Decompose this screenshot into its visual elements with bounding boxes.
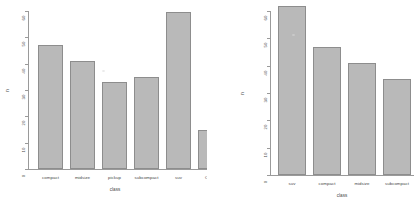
right-y-tick-label-30: 30 — [264, 93, 268, 107]
render-artifact-smudge — [292, 34, 295, 36]
bar-other — [198, 130, 207, 170]
left-y-tick-label-10: 10 — [22, 143, 26, 157]
right-y-tick-label-40: 40 — [264, 66, 268, 80]
bar-midsize — [348, 63, 376, 175]
left-y-tick-label-0: 0 — [22, 169, 26, 183]
render-artifact-smudge — [102, 70, 105, 72]
right-y-tick-label-0: 0 — [264, 175, 268, 189]
left-x-tick-label-compact: compact — [36, 176, 66, 180]
right-y-tick-label-20: 20 — [264, 120, 268, 134]
right-x-tick-label-compact: compact — [312, 182, 342, 186]
left-x-axis-line — [28, 169, 207, 170]
left-chart-panel: 60 50 40 30 20 10 0 n compact midsize pi… — [0, 0, 207, 215]
right-y-tick-label-10: 10 — [264, 148, 268, 162]
right-x-tick-label-midsize: midsize — [347, 182, 377, 186]
left-y-tick-label-60: 60 — [22, 11, 26, 25]
left-y-axis-line — [28, 11, 29, 169]
right-x-axis-title: class — [327, 193, 357, 198]
left-x-axis-title: class — [100, 187, 130, 192]
left-y-tick-label-20: 20 — [22, 116, 26, 130]
bar-subcompact — [134, 77, 159, 169]
left-y-tick-label-30: 30 — [22, 90, 26, 104]
bar-compact — [38, 45, 63, 169]
left-x-tick-label-midsize: midsize — [68, 176, 98, 180]
bar-midsize — [70, 61, 95, 169]
bar-compact — [313, 47, 341, 176]
bar-subcompact — [383, 79, 411, 175]
right-y-tick-label-60: 60 — [264, 11, 268, 25]
bar-suv — [166, 12, 191, 169]
left-x-tick-label-subcompact: subcompact — [132, 176, 162, 180]
bar-pickup — [102, 82, 127, 169]
right-chart-panel: 60 50 40 30 20 10 0 n suv compact midsiz… — [207, 0, 414, 215]
right-x-axis-line — [270, 175, 414, 176]
left-y-axis-title: n — [5, 83, 10, 99]
left-y-tick-label-50: 50 — [22, 37, 26, 51]
left-x-tick-label-other: Other — [196, 176, 208, 180]
left-y-tick-label-40: 40 — [22, 64, 26, 78]
left-x-tick-label-suv: suv — [164, 176, 194, 180]
faint-bottom-artifact — [58, 205, 59, 209]
bar-suv — [278, 6, 306, 175]
right-x-tick-label-subcompact: subcompact — [382, 182, 412, 186]
left-x-tick-label-pickup: pickup — [100, 176, 130, 180]
right-y-axis-line — [270, 11, 271, 175]
right-y-axis-title: n — [240, 86, 245, 102]
right-y-tick-label-50: 50 — [264, 38, 268, 52]
right-x-tick-label-suv: suv — [277, 182, 307, 186]
